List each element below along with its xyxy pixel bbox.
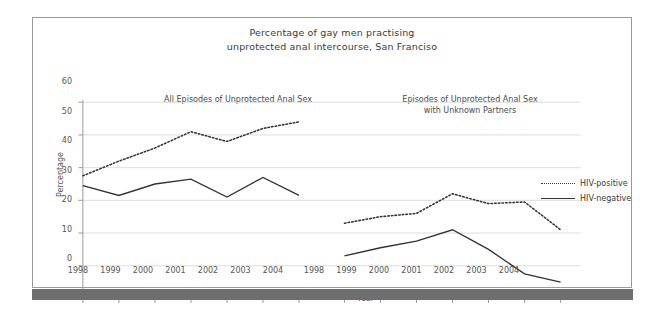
legend-label-hiv-positive: HIV-positive bbox=[580, 179, 628, 188]
panel-caption-right-line-2: with Unknown Partners bbox=[424, 106, 516, 115]
legend-swatch-solid-icon bbox=[541, 198, 575, 199]
y-tick-label-0: 0 bbox=[50, 254, 72, 263]
panel-caption-right-line-1: Episodes of Unprotected Anal Sex bbox=[402, 95, 537, 104]
chart-legend: HIV-positive HIV-negative bbox=[541, 176, 631, 206]
y-tick-label-20: 20 bbox=[50, 195, 72, 204]
x-tick-label-p1-2003: 2003 bbox=[462, 266, 492, 275]
figure-shadow-bar bbox=[32, 289, 633, 300]
x-tick-label-p0-2004: 2004 bbox=[258, 266, 288, 275]
plot-area bbox=[33, 18, 665, 327]
y-tick-label-10: 10 bbox=[50, 225, 72, 234]
x-tick-label-p1-2002: 2002 bbox=[429, 266, 459, 275]
chart-title: Percentage of gay men practising unprote… bbox=[33, 26, 631, 54]
x-tick-label-p0-2003: 2003 bbox=[226, 266, 256, 275]
panel-caption-right: Episodes of Unprotected Anal Sex with Un… bbox=[370, 94, 570, 116]
x-tick-label-p0-1999: 1999 bbox=[96, 266, 126, 275]
x-tick-label-p1-1999: 1999 bbox=[332, 266, 362, 275]
legend-label-hiv-negative: HIV-negative bbox=[580, 194, 631, 203]
chart-title-line-1: Percentage of gay men practising bbox=[33, 26, 631, 40]
panel-caption-left-line-1: All Episodes of Unprotected Anal Sex bbox=[164, 95, 312, 104]
x-tick-label-p1-2004: 2004 bbox=[494, 266, 524, 275]
x-tick-label-p0-2000: 2000 bbox=[128, 266, 158, 275]
series-line-hiv-positive-panel0 bbox=[83, 122, 299, 176]
x-tick-label-p0-1998: 1998 bbox=[63, 266, 93, 275]
x-tick-label-p0-2002: 2002 bbox=[193, 266, 223, 275]
legend-item-hiv-negative: HIV-negative bbox=[541, 191, 631, 206]
series-line-hiv-positive-panel1 bbox=[344, 194, 560, 230]
legend-item-hiv-positive: HIV-positive bbox=[541, 176, 631, 191]
y-tick-label-50: 50 bbox=[50, 107, 72, 116]
legend-swatch-dotted-icon bbox=[541, 183, 575, 184]
y-tick-label-40: 40 bbox=[50, 136, 72, 145]
x-tick-label-p1-1998: 1998 bbox=[299, 266, 329, 275]
series-line-hiv-negative-panel0 bbox=[83, 177, 299, 197]
figure-frame: Percentage of gay men practising unprote… bbox=[32, 17, 632, 288]
panel-caption-left: All Episodes of Unprotected Anal Sex bbox=[133, 94, 343, 105]
x-tick-label-p1-2001: 2001 bbox=[397, 266, 427, 275]
y-tick-label-30: 30 bbox=[50, 166, 72, 175]
x-tick-label-p0-2001: 2001 bbox=[161, 266, 191, 275]
x-tick-label-p1-2000: 2000 bbox=[364, 266, 394, 275]
y-tick-label-60: 60 bbox=[50, 77, 72, 86]
chart-title-line-2: unprotected anal intercourse, San Franci… bbox=[33, 40, 631, 54]
